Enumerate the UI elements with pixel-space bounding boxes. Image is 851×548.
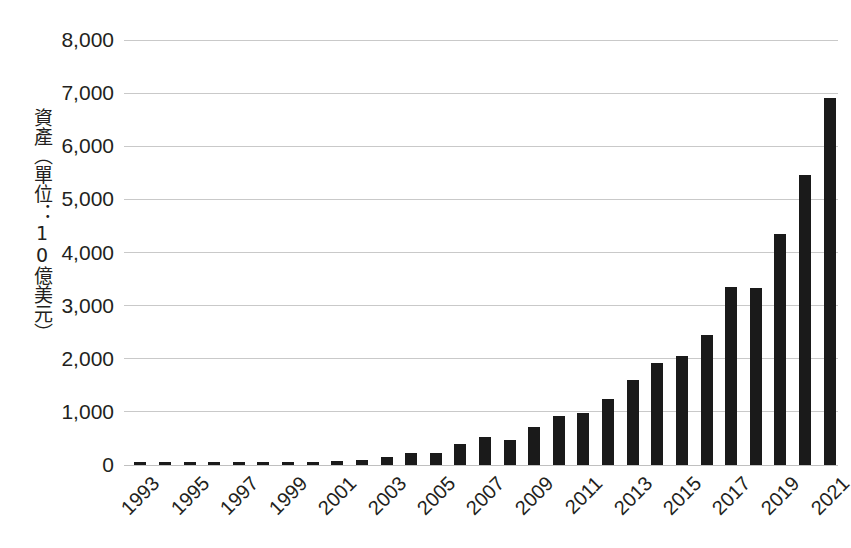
bar	[307, 462, 319, 465]
x-tick-label: 1995	[158, 472, 214, 528]
bar	[577, 413, 589, 465]
bar	[750, 288, 762, 465]
x-tick-label: 2009	[503, 472, 559, 528]
y-tick-label: 1,000	[4, 400, 114, 424]
y-tick-label: 0	[4, 453, 114, 477]
bar	[504, 440, 516, 466]
y-tick-label: 8,000	[4, 28, 114, 52]
bar	[454, 444, 466, 465]
bar-chart: 資產（單位：10億美元） 8,0007,0006,0005,0004,0003,…	[0, 0, 851, 548]
bar	[233, 462, 245, 465]
bar	[824, 98, 836, 465]
bar	[405, 453, 417, 465]
x-tick-label: 1999	[256, 472, 312, 528]
x-axis-tick-labels: 1993199519971999200120032005200720092011…	[124, 466, 838, 546]
x-tick-label: 2003	[355, 472, 411, 528]
x-tick-label: 2001	[306, 472, 362, 528]
x-tick-label: 2017	[700, 472, 756, 528]
bar	[159, 462, 171, 465]
x-tick-label: 2015	[650, 472, 706, 528]
bar	[257, 462, 269, 465]
y-tick-label: 5,000	[4, 187, 114, 211]
bar	[701, 335, 713, 465]
bar	[184, 462, 196, 465]
bar-series	[124, 40, 838, 465]
y-tick-label: 3,000	[4, 294, 114, 318]
plot-area	[124, 40, 838, 465]
bar	[528, 427, 540, 465]
x-tick-label: 2007	[453, 472, 509, 528]
x-tick-label: 1993	[109, 472, 165, 528]
y-tick-label: 4,000	[4, 241, 114, 265]
y-tick-label: 7,000	[4, 81, 114, 105]
bar	[356, 460, 368, 465]
bar	[381, 457, 393, 465]
bar	[602, 399, 614, 465]
bar	[627, 380, 639, 465]
bar	[774, 234, 786, 465]
y-tick-label: 6,000	[4, 134, 114, 158]
x-tick-label: 2021	[798, 472, 851, 528]
y-tick-label: 2,000	[4, 347, 114, 371]
y-axis-tick-labels: 8,0007,0006,0005,0004,0003,0002,0001,000…	[0, 40, 114, 465]
bar	[331, 461, 343, 465]
bar	[430, 453, 442, 465]
bar	[208, 462, 220, 465]
x-tick-label: 1997	[207, 472, 263, 528]
x-tick-label: 2013	[601, 472, 657, 528]
bar	[479, 437, 491, 465]
bar	[282, 462, 294, 465]
bar	[134, 462, 146, 465]
bar	[676, 356, 688, 465]
bar	[725, 287, 737, 465]
bar	[553, 416, 565, 465]
bar	[799, 175, 811, 465]
bar	[651, 363, 663, 465]
x-tick-label: 2005	[404, 472, 460, 528]
x-tick-label: 2019	[749, 472, 805, 528]
x-tick-label: 2011	[552, 472, 608, 528]
